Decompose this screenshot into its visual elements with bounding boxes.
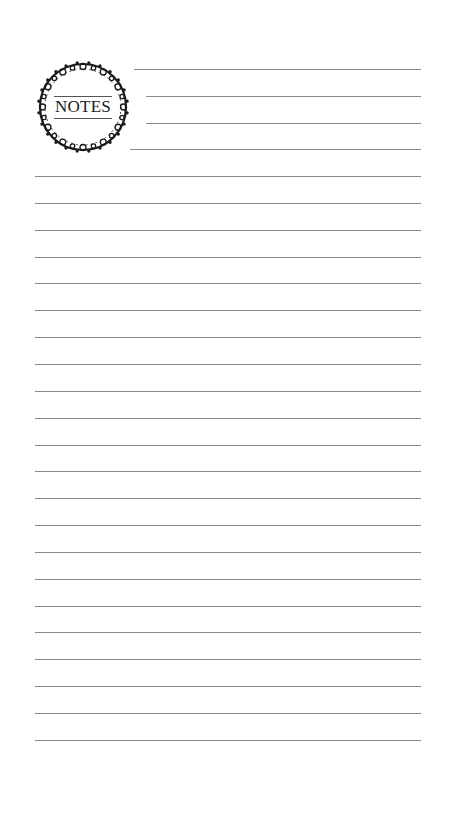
writing-line (35, 632, 421, 633)
writing-line (35, 552, 421, 553)
title-rule-bottom (54, 118, 112, 119)
writing-line (35, 203, 421, 204)
writing-line (35, 606, 421, 607)
writing-line (35, 337, 421, 338)
short-writing-line (130, 149, 421, 150)
writing-line (35, 176, 421, 177)
writing-line (35, 659, 421, 660)
writing-line (35, 283, 421, 284)
writing-line (35, 686, 421, 687)
writing-line (35, 445, 421, 446)
short-writing-line (134, 69, 421, 70)
writing-line (35, 364, 421, 365)
writing-line (35, 471, 421, 472)
writing-line (35, 713, 421, 714)
short-writing-line (146, 96, 421, 97)
writing-line (35, 230, 421, 231)
writing-line (35, 310, 421, 311)
writing-line (35, 525, 421, 526)
short-writing-line (146, 123, 421, 124)
page-title: NOTES (35, 97, 131, 117)
writing-line (35, 391, 421, 392)
writing-line (35, 498, 421, 499)
notes-badge: NOTES (35, 59, 131, 155)
writing-line (35, 579, 421, 580)
writing-line (35, 740, 421, 741)
writing-line (35, 418, 421, 419)
writing-line (35, 257, 421, 258)
